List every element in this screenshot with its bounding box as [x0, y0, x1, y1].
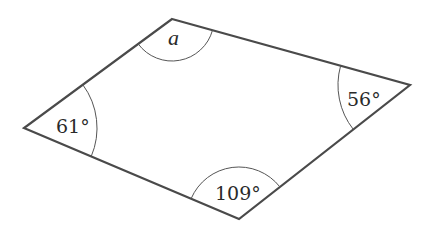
angle-label-top: a: [168, 25, 179, 50]
quadrilateral-diagram: a 56° 109° 61°: [0, 0, 429, 228]
angle-label-right: 56°: [347, 88, 381, 110]
angle-label-left: 61°: [56, 115, 90, 137]
angle-label-bottom: 109°: [215, 182, 261, 204]
